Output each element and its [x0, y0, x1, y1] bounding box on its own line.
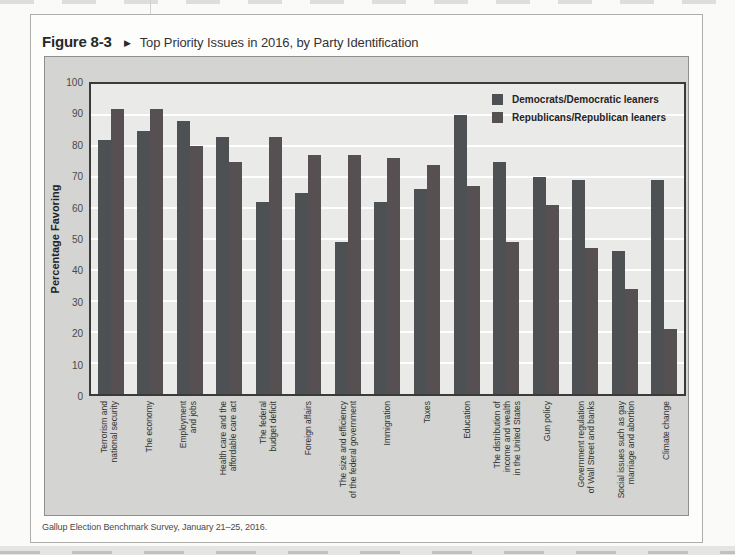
- bar: [572, 180, 585, 394]
- figure-page: Figure 8-3 ▶ Top Priority Issues in 2016…: [30, 14, 703, 543]
- y-tick-label: 50: [62, 234, 83, 245]
- bar: [454, 115, 467, 394]
- figure-arrow-icon: ▶: [124, 38, 131, 48]
- bar: [177, 121, 190, 394]
- bar: [506, 242, 519, 394]
- x-label-cell: The economy: [129, 401, 169, 513]
- legend: Democrats/Democratic leanersRepublicans/…: [492, 94, 666, 123]
- x-axis-label: The economy: [144, 401, 154, 511]
- bar-group: [249, 84, 289, 394]
- x-axis-label: Health care and the affordable care act: [218, 401, 238, 511]
- x-label-cell: Gun policy: [527, 401, 567, 513]
- y-tick-label: 20: [62, 328, 83, 339]
- legend-item: Democrats/Democratic leaners: [492, 94, 666, 105]
- x-label-cell: Immigration: [368, 401, 408, 513]
- y-tick-label: 90: [62, 108, 83, 119]
- bar: [467, 186, 480, 394]
- y-tick-label: 80: [62, 139, 83, 150]
- x-axis-label: Social issues such as gay marriage and a…: [616, 401, 636, 511]
- bar-group: [526, 84, 566, 394]
- bar-group: [328, 84, 368, 394]
- bar: [229, 162, 242, 395]
- x-label-cell: Terrorism and national security: [89, 401, 129, 513]
- bar: [348, 155, 361, 394]
- bar: [98, 140, 111, 394]
- figure-number-label: Figure 8-3: [42, 33, 112, 50]
- x-axis-label: Immigration: [382, 401, 392, 511]
- x-label-cell: Health care and the affordable care act: [208, 401, 248, 513]
- bar: [374, 202, 387, 394]
- x-axis-label: Education: [462, 401, 472, 511]
- bar-group: [565, 84, 605, 394]
- plot-area: Democrats/Democratic leanersRepublicans/…: [89, 82, 686, 396]
- legend-label: Democrats/Democratic leaners: [512, 94, 659, 105]
- bar: [387, 158, 400, 394]
- y-tick-label: 60: [62, 202, 83, 213]
- y-tick-label: 30: [62, 296, 83, 307]
- x-label-cell: Foreign affairs: [288, 401, 328, 513]
- bar-group: [407, 84, 447, 394]
- bar-group: [170, 84, 210, 394]
- x-label-cell: The distribution of income and wealth in…: [487, 401, 527, 513]
- screenshot-stage: Figure 8-3 ▶ Top Priority Issues in 2016…: [0, 0, 735, 555]
- bar-group: [644, 84, 684, 394]
- bar-group: [486, 84, 526, 394]
- x-label-cell: The federal budget deficit: [248, 401, 288, 513]
- bar: [664, 329, 677, 394]
- bar-group: [131, 84, 171, 394]
- x-label-cell: Education: [447, 401, 487, 513]
- source-line: Gallup Election Benchmark Survey, Januar…: [42, 522, 267, 532]
- x-axis-label: Climate change: [661, 401, 671, 511]
- x-axis-label: Terrorism and national security: [99, 401, 119, 511]
- bar-group: [368, 84, 408, 394]
- legend-label: Republicans/Republican leaners: [512, 112, 666, 123]
- x-axis-label: The size and efficiency of the federal g…: [338, 401, 358, 511]
- x-label-cell: Employment and jobs: [169, 401, 209, 513]
- bar: [335, 242, 348, 394]
- x-label-cell: Climate change: [646, 401, 686, 513]
- scan-artifact-vertical-line: [150, 0, 151, 14]
- bar: [295, 193, 308, 395]
- x-axis-labels: Terrorism and national securityThe econo…: [89, 401, 686, 513]
- x-label-cell: Government regulation of Wall Street and…: [567, 401, 607, 513]
- bar: [137, 131, 150, 395]
- bar: [150, 109, 163, 394]
- x-axis-label: Government regulation of Wall Street and…: [576, 401, 596, 511]
- y-tick-label: 100: [62, 77, 83, 88]
- bar-group: [605, 84, 645, 394]
- figure-title: Top Priority Issues in 2016, by Party Id…: [140, 35, 419, 50]
- bar-group: [447, 84, 487, 394]
- y-axis-title: Percentage Favoring: [49, 185, 61, 294]
- x-label-cell: The size and efficiency of the federal g…: [328, 401, 368, 513]
- bar: [111, 109, 124, 394]
- bar: [269, 137, 282, 394]
- bar-group: [91, 84, 131, 394]
- bar: [625, 289, 638, 394]
- bar-group: [210, 84, 250, 394]
- bar: [256, 202, 269, 394]
- legend-swatch-icon: [492, 94, 503, 105]
- bar: [427, 165, 440, 394]
- x-label-cell: Taxes: [407, 401, 447, 513]
- x-axis-label: Employment and jobs: [178, 401, 198, 511]
- bar: [190, 146, 203, 394]
- x-axis-label: Foreign affairs: [303, 401, 313, 511]
- bar: [612, 251, 625, 394]
- x-axis-label: The distribution of income and wealth in…: [492, 401, 522, 511]
- y-axis-ticks: 0102030405060708090100: [62, 82, 87, 396]
- legend-item: Republicans/Republican leaners: [492, 112, 666, 123]
- bar: [414, 189, 427, 394]
- scan-artifact-bottom-dashes: [0, 551, 735, 554]
- legend-swatch-icon: [492, 112, 503, 123]
- y-tick-label: 70: [62, 171, 83, 182]
- x-axis-label: Gun policy: [542, 401, 552, 511]
- bar-group: [289, 84, 329, 394]
- x-axis-label: The federal budget deficit: [258, 401, 278, 511]
- y-tick-label: 0: [62, 391, 83, 402]
- bar: [585, 248, 598, 394]
- bar: [493, 162, 506, 395]
- chart-panel: Percentage Favoring 01020304050607080901…: [44, 56, 689, 516]
- bar: [216, 137, 229, 394]
- bar: [308, 155, 321, 394]
- bar: [546, 205, 559, 394]
